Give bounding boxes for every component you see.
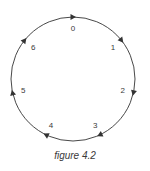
node-label-1: 1 [111,43,116,52]
node-label-2: 2 [120,86,125,95]
arrowhead-icon [96,131,104,139]
node-label-6: 6 [31,43,36,52]
arrowhead-icon [130,90,137,97]
node-label-5: 5 [21,86,26,95]
cycle-diagram: 0 1 2 3 4 5 6 [0,0,150,171]
arrowhead-icon [71,14,77,20]
node-label-0: 0 [71,24,76,33]
node-labels: 0 1 2 3 4 5 6 [21,24,125,130]
figure-caption: figure 4.2 [0,150,150,161]
arrowhead-icon [42,131,50,139]
node-label-4: 4 [49,121,54,130]
arrowhead-icon [9,89,16,96]
node-label-3: 3 [93,121,98,130]
cycle-circle [11,17,135,141]
